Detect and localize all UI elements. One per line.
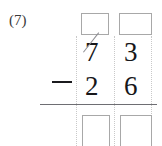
- regroup-box-ones[interactable]: [119, 13, 152, 35]
- column-guide-left: [76, 36, 78, 146]
- answer-box-tens[interactable]: [82, 115, 110, 146]
- subtrahend-tens-digit: 2: [85, 73, 99, 100]
- answer-divider-rule: [40, 104, 157, 105]
- subtraction-problem-card: (7) 7 3 2 6: [0, 0, 162, 146]
- minus-operator-icon: [52, 81, 72, 83]
- subtrahend-ones-digit: 6: [124, 73, 138, 100]
- minuend-ones-digit: 3: [124, 39, 138, 66]
- column-guide-middle: [114, 36, 116, 146]
- problem-number-label: (7): [9, 13, 27, 28]
- answer-box-ones[interactable]: [120, 115, 152, 146]
- regroup-box-tens[interactable]: [81, 13, 109, 35]
- minuend-tens-digit: 7: [85, 39, 99, 66]
